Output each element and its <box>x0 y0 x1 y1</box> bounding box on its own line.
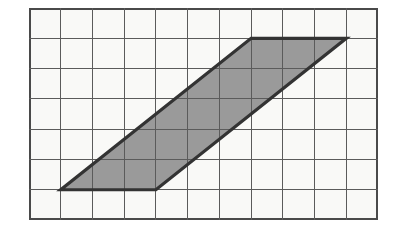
grid-figure <box>29 8 378 220</box>
figure-page <box>0 0 404 234</box>
parallelogram-grid-svg <box>29 8 378 220</box>
